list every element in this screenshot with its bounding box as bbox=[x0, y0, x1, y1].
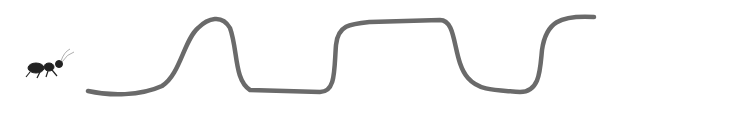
path-curve bbox=[0, 0, 736, 139]
